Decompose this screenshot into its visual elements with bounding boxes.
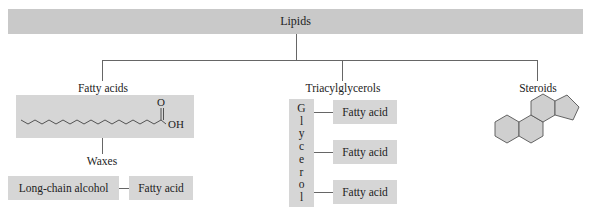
- fatty-acids-drop-line: [102, 60, 103, 81]
- tag-fatty-acid-box-1: Fatty acid: [333, 100, 397, 124]
- tag-fatty-acid-box-2: Fatty acid: [333, 140, 397, 164]
- wax-fatty-acid-box: Fatty acid: [129, 176, 193, 200]
- hydroxyl-label: OH: [168, 118, 184, 130]
- glycerol-letter: r: [300, 167, 304, 178]
- long-chain-alcohol-box: Long-chain alcohol: [8, 176, 119, 200]
- glycerol-letter: y: [299, 128, 305, 139]
- branch-horizontal-line: [102, 60, 538, 61]
- glycerol-letter: l: [300, 192, 303, 203]
- tag-fatty-acid-label-3: Fatty acid: [342, 186, 388, 198]
- steroid-ring-structure-icon: [494, 100, 584, 160]
- ester-bond-line-3: [314, 192, 333, 193]
- glycerol-backbone-box: G l y c e r o l: [289, 99, 314, 207]
- tag-fatty-acid-label-1: Fatty acid: [342, 106, 388, 118]
- glycerol-letter: e: [299, 154, 304, 165]
- lipids-root-banner: Lipids: [8, 9, 583, 34]
- fatty-acid-chain-icon: O OH: [16, 95, 194, 138]
- lipids-root-label: Lipids: [280, 14, 311, 29]
- wax-ester-bond-line: [119, 188, 129, 189]
- glycerol-letter: G: [297, 103, 305, 114]
- triacylglycerols-drop-line: [342, 60, 343, 81]
- glycerol-letter: o: [299, 179, 305, 190]
- ester-bond-line-1: [314, 112, 333, 113]
- steroids-label: Steroids: [508, 82, 568, 94]
- root-stem-line: [296, 34, 297, 61]
- waxes-label: Waxes: [72, 155, 132, 167]
- tag-fatty-acid-label-2: Fatty acid: [342, 146, 388, 158]
- glycerol-letter: c: [299, 141, 304, 152]
- ester-bond-line-2: [314, 152, 333, 153]
- steroids-drop-line: [537, 60, 538, 81]
- glycerol-letter: l: [300, 116, 303, 127]
- long-chain-alcohol-label: Long-chain alcohol: [19, 182, 109, 194]
- wax-fatty-acid-label: Fatty acid: [138, 182, 184, 194]
- tag-fatty-acid-box-3: Fatty acid: [333, 180, 397, 204]
- triacylglycerols-label: Triacylglycerols: [297, 82, 389, 94]
- carbonyl-oxygen-label: O: [157, 96, 165, 108]
- fatty-acids-label: Fatty acids: [62, 82, 144, 94]
- waxes-drop-line: [102, 138, 103, 154]
